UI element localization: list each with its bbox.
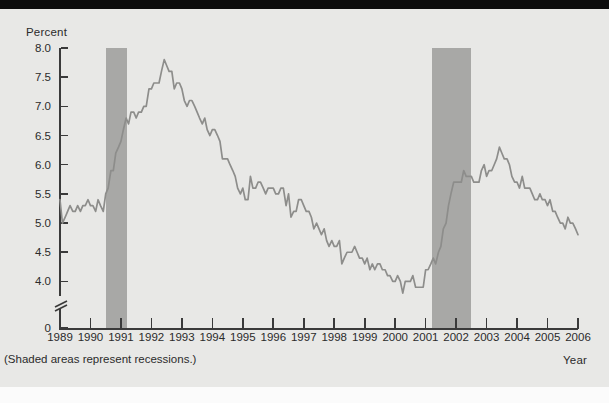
recession-band <box>106 48 127 328</box>
x-tick-label: 2000 <box>382 331 408 343</box>
y-tick-label: 7.0 <box>5 100 51 112</box>
x-tick-label: 1994 <box>200 331 226 343</box>
y-tick <box>61 193 68 195</box>
y-tick-label: 4.0 <box>5 275 51 287</box>
x-tick-label: 2003 <box>474 331 500 343</box>
x-tick-label: 2005 <box>535 331 561 343</box>
y-tick-label: 6.5 <box>5 130 51 142</box>
y-tick-label: 5.5 <box>5 188 51 200</box>
y-tick-label: 0 <box>5 322 51 334</box>
y-tick <box>61 135 68 137</box>
x-tick-label: 1991 <box>108 331 134 343</box>
x-tick <box>120 318 122 329</box>
x-tick <box>59 318 61 329</box>
x-tick <box>181 318 183 329</box>
y-tick <box>61 327 68 329</box>
x-tick-label: 2002 <box>443 331 469 343</box>
x-tick-label: 1993 <box>169 331 195 343</box>
top-border-band <box>0 0 609 9</box>
y-axis-line <box>59 48 61 296</box>
x-tick <box>394 318 396 329</box>
x-tick <box>516 318 518 329</box>
y-tick <box>61 47 68 49</box>
chart-caption: (Shaded areas represent recessions.) <box>4 353 196 365</box>
x-tick-label: 2006 <box>565 331 591 343</box>
y-tick <box>61 76 68 78</box>
x-tick <box>364 318 366 329</box>
x-tick-label: 2004 <box>504 331 530 343</box>
y-tick-label: 4.5 <box>5 246 51 258</box>
y-tick <box>61 106 68 108</box>
chart-plot-area: Percent Year 04.04.55.05.56.06.57.07.58.… <box>0 9 609 387</box>
x-tick-label: 1999 <box>352 331 378 343</box>
series-path <box>60 60 578 293</box>
bottom-border-band <box>0 387 609 403</box>
x-tick <box>455 318 457 329</box>
unemployment-rate-figure: Percent Year 04.04.55.05.56.06.57.07.58.… <box>0 0 609 403</box>
y-tick-label: 5.0 <box>5 217 51 229</box>
y-tick-label: 8.0 <box>5 42 51 54</box>
y-tick <box>61 281 68 283</box>
x-tick <box>90 318 92 329</box>
x-tick <box>212 318 214 329</box>
x-tick <box>242 318 244 329</box>
x-tick <box>333 318 335 329</box>
x-tick <box>272 318 274 329</box>
y-tick <box>61 164 68 166</box>
x-axis-line <box>59 328 578 330</box>
x-tick <box>547 318 549 329</box>
x-axis-title: Year <box>563 354 587 366</box>
x-tick-label: 1990 <box>78 331 104 343</box>
y-tick-label: 6.0 <box>5 159 51 171</box>
y-tick-label: 7.5 <box>5 71 51 83</box>
x-tick-label: 1989 <box>47 331 73 343</box>
x-tick <box>151 318 153 329</box>
x-tick <box>425 318 427 329</box>
x-tick-label: 1998 <box>321 331 347 343</box>
x-tick-label: 1996 <box>260 331 286 343</box>
x-tick-label: 1995 <box>230 331 256 343</box>
y-tick <box>61 222 68 224</box>
x-tick <box>303 318 305 329</box>
axis-break-icon <box>52 294 72 314</box>
y-axis-title: Percent <box>26 26 67 38</box>
x-tick-label: 1992 <box>139 331 165 343</box>
y-tick <box>61 251 68 253</box>
recession-band <box>432 48 472 328</box>
x-tick <box>486 318 488 329</box>
x-tick-label: 2001 <box>413 331 439 343</box>
x-tick <box>577 318 579 329</box>
x-tick-label: 1997 <box>291 331 317 343</box>
